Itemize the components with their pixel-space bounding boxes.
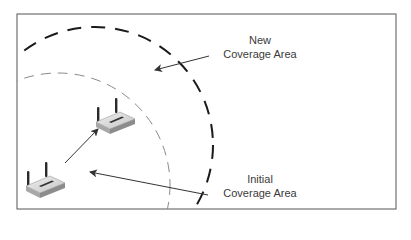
initial-coverage-label-line1: Initial <box>205 172 315 186</box>
new-coverage-label-line2: Coverage Area <box>205 47 315 61</box>
new-coverage-area-label: New Coverage Area <box>205 33 315 61</box>
new-coverage-label-line1: New <box>205 33 315 47</box>
initial-coverage-label-line2: Coverage Area <box>205 186 315 200</box>
initial-coverage-area-label: Initial Coverage Area <box>205 172 315 200</box>
